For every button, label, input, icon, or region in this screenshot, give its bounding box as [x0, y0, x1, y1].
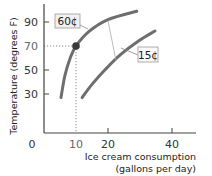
x-tick-label: 20: [101, 138, 115, 151]
annotation-leader: [80, 25, 88, 29]
ticks: 305070900102040: [24, 16, 179, 151]
y-tick-label: 70: [24, 40, 38, 53]
y-axis-title: Temperature (degrees F): [8, 17, 19, 135]
x-tick-label: 10: [69, 138, 83, 151]
highlight-point: [72, 42, 80, 50]
annotation-label-15c: 15¢: [138, 49, 158, 61]
x-tick-label: 40: [165, 138, 179, 151]
x-axis-title-line-1: Ice cream consumption: [85, 151, 196, 162]
y-tick-label: 90: [24, 16, 38, 29]
y-tick-label: 50: [24, 64, 38, 77]
x-axis-title-line-2: (gallons per day): [115, 163, 196, 174]
y-tick-label: 30: [24, 88, 38, 101]
curve-connector-line: [108, 21, 116, 61]
x-tick-label: 0: [29, 138, 36, 151]
annotation-label-60c: 60¢: [57, 15, 77, 27]
chart: 305070900102040 60¢15¢ Temperature (degr…: [0, 0, 212, 176]
series-line-15c: [82, 31, 155, 98]
